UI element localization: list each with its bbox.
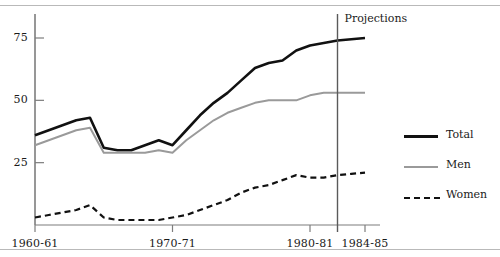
legend-item-women: Women — [404, 188, 498, 218]
y-tick-label: 50 — [0, 93, 28, 106]
legend-swatch-women — [404, 197, 440, 199]
chart-legend: Total Men Women — [404, 128, 498, 218]
legend-label-women: Women — [446, 188, 487, 201]
x-tick-label: 1960-61 — [0, 237, 75, 250]
x-tick-label: 1970-71 — [133, 237, 213, 250]
y-tick-label: 75 — [0, 31, 28, 44]
data-series-group — [35, 38, 365, 220]
projections-annotation: Projections — [345, 12, 408, 25]
legend-label-total: Total — [446, 128, 474, 141]
legend-item-total: Total — [404, 128, 498, 158]
legend-label-men: Men — [446, 158, 471, 171]
x-tick-marks — [35, 225, 365, 232]
y-tick-label: 25 — [0, 156, 28, 169]
figure: 255075 1960-611970-711980-811984-85 Proj… — [0, 0, 500, 257]
series-line-women — [35, 173, 365, 220]
legend-swatch-men — [404, 166, 438, 168]
legend-swatch-total — [404, 135, 438, 138]
series-line-men — [35, 93, 365, 153]
x-tick-label: 1984-85 — [325, 237, 405, 250]
legend-item-men: Men — [404, 158, 498, 188]
